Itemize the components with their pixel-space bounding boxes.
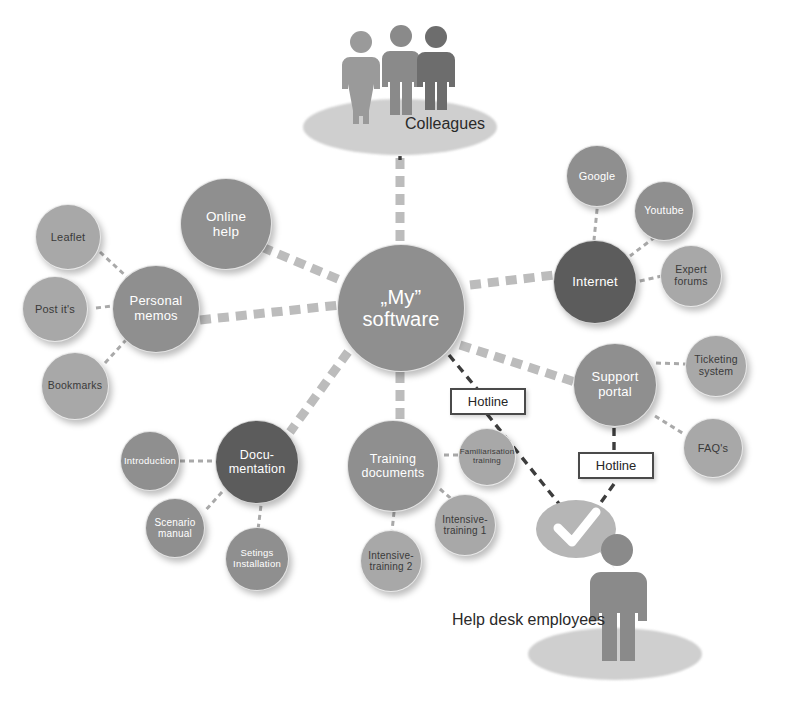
colleagues-label-text: Colleagues xyxy=(405,115,485,132)
speech-bubble xyxy=(536,500,616,570)
node-scenario-line1: Scenario xyxy=(150,517,199,528)
colleagues-figures xyxy=(342,25,455,124)
node-support-portal-line1: Support xyxy=(588,370,643,385)
link-youtube-internet xyxy=(630,237,655,256)
node-leaflet[interactable]: Leaflet xyxy=(35,204,101,270)
link-center-hotlineupper xyxy=(449,355,478,390)
colleagues-label: Colleagues xyxy=(405,115,485,133)
node-leaflet-label: Leaflet xyxy=(47,231,89,243)
link-faqs-support xyxy=(655,416,684,434)
node-expert-forums-line2: forums xyxy=(670,276,711,288)
node-settings-line2: Installation xyxy=(229,559,285,570)
node-documentation[interactable]: Docu- mentation xyxy=(215,420,299,504)
node-ticketing-system[interactable]: Ticketing system xyxy=(685,335,747,397)
node-google[interactable]: Google xyxy=(566,145,628,207)
node-intensive2-line2: training 2 xyxy=(364,561,417,572)
node-training-documents[interactable]: Training documents xyxy=(347,420,439,512)
node-google-label: Google xyxy=(575,170,620,182)
node-settings-installation[interactable]: Setings Installation xyxy=(225,527,289,591)
node-post-its-label: Post it's xyxy=(31,303,79,315)
node-personal-memos-line2: memos xyxy=(126,309,187,324)
node-scenario-manual[interactable]: Scenario manual xyxy=(145,498,205,558)
link-bookmarks-memos xyxy=(105,340,126,363)
hotline-upper-label: Hotline xyxy=(468,394,508,409)
node-youtube-label: Youtube xyxy=(640,205,688,217)
node-ticketing-line2: system xyxy=(690,366,741,378)
hotline-box-upper[interactable]: Hotline xyxy=(450,388,526,415)
node-familiarisation-training[interactable]: Familiarisation training xyxy=(458,428,516,486)
node-faqs-label: FAQ's xyxy=(694,442,733,454)
node-internet[interactable]: Internet xyxy=(553,240,637,324)
node-bookmarks-label: Bookmarks xyxy=(44,380,106,392)
node-support-portal-line2: portal xyxy=(588,385,643,400)
link-hotlinelower-helpdesk xyxy=(599,484,614,505)
node-personal-memos[interactable]: Personal memos xyxy=(112,265,200,353)
node-internet-label: Internet xyxy=(568,275,622,290)
node-faqs[interactable]: FAQ's xyxy=(683,418,743,478)
node-online-help-line2: help xyxy=(202,224,250,239)
node-personal-memos-line1: Personal xyxy=(126,294,187,309)
node-intensive-training-1[interactable]: Intensive- training 1 xyxy=(434,494,496,556)
node-center-label-line1: „My” xyxy=(358,286,443,308)
node-training-line2: documents xyxy=(358,466,429,480)
node-scenario-line2: manual xyxy=(150,528,199,539)
link-leaflet-memos xyxy=(100,252,128,278)
node-intensive1-line1: Intensive- xyxy=(438,514,491,525)
node-post-its[interactable]: Post it's xyxy=(22,276,88,342)
node-intensive1-line2: training 1 xyxy=(438,525,491,536)
node-bookmarks[interactable]: Bookmarks xyxy=(41,352,109,420)
node-introduction-label: Introduction xyxy=(120,456,180,467)
node-online-help-line1: Online xyxy=(202,209,250,224)
node-training-line1: Training xyxy=(358,452,429,466)
node-support-portal[interactable]: Support portal xyxy=(573,343,657,427)
node-center-label-line2: software xyxy=(358,308,443,330)
node-introduction[interactable]: Introduction xyxy=(120,431,180,491)
node-youtube[interactable]: Youtube xyxy=(634,181,694,241)
helpdesk-label-text: Help desk employees xyxy=(452,611,605,628)
link-supportportal-center xyxy=(460,345,575,382)
hotline-box-lower[interactable]: Hotline xyxy=(578,452,654,479)
node-center-my-software[interactable]: „My” software xyxy=(337,244,465,372)
node-online-help[interactable]: Online help xyxy=(180,178,272,270)
node-intensive-training-2[interactable]: Intensive- training 2 xyxy=(360,530,422,592)
colleague-figure-3 xyxy=(417,26,455,110)
link-internet-center xyxy=(470,275,555,285)
node-expert-forums[interactable]: Expert forums xyxy=(660,245,722,307)
link-postits-memos xyxy=(96,306,112,308)
link-documentation-center xyxy=(290,352,348,432)
node-familiarisation-line2: training xyxy=(456,457,519,466)
link-scenario-docs xyxy=(204,492,222,512)
node-documentation-line2: mentation xyxy=(225,462,290,476)
hotline-lower-label: Hotline xyxy=(596,458,636,473)
link-personalmemos-center xyxy=(200,305,340,320)
helpdesk-label: Help desk employees xyxy=(452,611,605,629)
node-documentation-line1: Docu- xyxy=(225,448,290,462)
node-intensive2-line1: Intensive- xyxy=(364,550,417,561)
link-ticketing-support xyxy=(656,363,686,364)
